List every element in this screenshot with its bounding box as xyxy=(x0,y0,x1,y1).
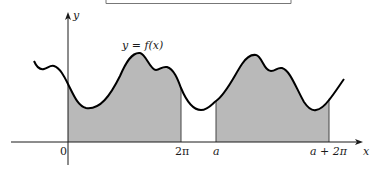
y-axis-label: y xyxy=(72,9,80,22)
function-label: y = f(x) xyxy=(121,39,163,52)
x-tick-label-0: 0 xyxy=(60,145,67,158)
top-frame-fragment xyxy=(106,0,291,4)
periodic-integral-diagram: y y = f(x) 0 2π a a + 2π x xyxy=(0,0,377,171)
x-axis-label: x xyxy=(363,145,370,158)
x-tick-label-2pi: 2π xyxy=(175,145,189,158)
x-tick-label-a-plus-2pi: a + 2π xyxy=(310,145,348,158)
x-tick-label-a: a xyxy=(213,145,220,158)
shaded-region-a-to-a-plus-2pi xyxy=(216,55,329,142)
